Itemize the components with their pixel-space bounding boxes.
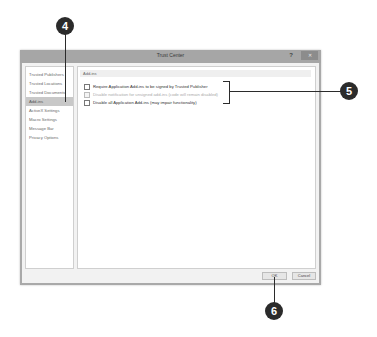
- option-label: Disable all Application Add-ins (may imp…: [93, 100, 197, 105]
- callout-5-bracket-vertical: [229, 81, 230, 104]
- help-button[interactable]: ?: [286, 51, 296, 60]
- callout-6-leader: [274, 277, 275, 303]
- option-disable-notification: Disable notification for unsigned add-in…: [84, 91, 218, 98]
- disable-all-checkbox[interactable]: [84, 100, 90, 106]
- callout-4-badge: 4: [56, 17, 74, 35]
- nav-item-privacy-options[interactable]: Privacy Options: [26, 133, 73, 142]
- option-label: Require Application Add-ins to be signed…: [93, 84, 208, 89]
- option-disable-all[interactable]: Disable all Application Add-ins (may imp…: [84, 99, 197, 106]
- callout-6-badge: 6: [265, 302, 283, 320]
- callout-5-badge: 5: [340, 82, 358, 100]
- option-require-signed[interactable]: Require Application Add-ins to be signed…: [84, 83, 208, 90]
- nav-item-message-bar[interactable]: Message Bar: [26, 124, 73, 133]
- disable-notification-checkbox: [84, 92, 90, 98]
- callout-5-bracket-top: [223, 81, 230, 82]
- nav-item-macro-settings[interactable]: Macro Settings: [26, 115, 73, 124]
- dialog-body: Trusted Publishers Trusted Locations Tru…: [22, 63, 319, 283]
- option-label: Disable notification for unsigned add-in…: [93, 92, 218, 97]
- section-header: Add-ins: [80, 70, 311, 77]
- require-signed-checkbox[interactable]: [84, 84, 90, 90]
- nav-item-activex-settings[interactable]: ActiveX Settings: [26, 106, 73, 115]
- callout-5-bracket-bottom: [223, 103, 230, 104]
- callout-4-leader: [65, 34, 66, 102]
- category-list: Trusted Publishers Trusted Locations Tru…: [25, 66, 74, 269]
- callout-5-leader: [229, 91, 341, 92]
- close-button[interactable]: ✕: [301, 51, 318, 60]
- cancel-button[interactable]: Cancel: [292, 272, 316, 280]
- add-ins-panel: Add-ins Require Application Add-ins to b…: [77, 66, 316, 269]
